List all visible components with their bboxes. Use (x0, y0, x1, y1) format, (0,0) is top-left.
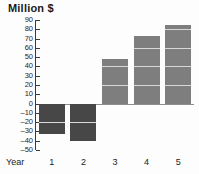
bar-segment-line (165, 85, 191, 86)
bar-segment-line (102, 85, 128, 86)
y-axis-tick-label: –30 (5, 127, 33, 135)
y-axis-tick-label: 50 (5, 53, 33, 61)
x-axis-tick-label: 4 (144, 157, 149, 167)
bar-2 (70, 104, 96, 141)
x-axis-tick-label: 1 (49, 157, 54, 167)
plot-area (36, 20, 194, 150)
bar-4 (134, 36, 160, 104)
x-axis-tick-label: 2 (81, 157, 86, 167)
bar-1 (39, 104, 65, 135)
y-axis-tick-label: 40 (5, 62, 33, 70)
bar-5 (165, 25, 191, 104)
bar-segment-line (39, 122, 65, 123)
x-axis-title: Year (6, 157, 24, 167)
x-axis-tick-label: 5 (176, 157, 181, 167)
bar-3 (102, 59, 128, 104)
y-axis-labels: 9080706050403020100–10–20–30–40–50 (0, 0, 33, 174)
y-axis-tick-label: 10 (5, 90, 33, 98)
bar-segment-line (134, 48, 160, 49)
y-axis-tick-label: 90 (5, 16, 33, 24)
y-axis-tick-label: 80 (5, 25, 33, 33)
bar-segment-line (134, 66, 160, 67)
bar-segment-line (165, 29, 191, 30)
y-axis-tick-label: 20 (5, 81, 33, 89)
y-axis-tick-label: 0 (5, 100, 33, 108)
y-axis-tick-label: 70 (5, 35, 33, 43)
bar-chart: Million $ 9080706050403020100–10–20–30–4… (0, 0, 199, 174)
bar-segment-line (165, 48, 191, 49)
y-axis-tick-label: –50 (5, 146, 33, 154)
x-axis-tick-label: 3 (112, 157, 117, 167)
bar-segment-line (134, 85, 160, 86)
y-axis-tick-label: 30 (5, 72, 33, 80)
bar-segment-line (165, 66, 191, 67)
bar-segment-line (102, 66, 128, 67)
bar-segment-line (70, 122, 96, 123)
y-axis-tick-label: 60 (5, 44, 33, 52)
y-axis-tick-label: –40 (5, 137, 33, 145)
y-axis-tick-label: –20 (5, 118, 33, 126)
y-axis-tick (36, 150, 40, 151)
y-axis-tick-label: –10 (5, 109, 33, 117)
